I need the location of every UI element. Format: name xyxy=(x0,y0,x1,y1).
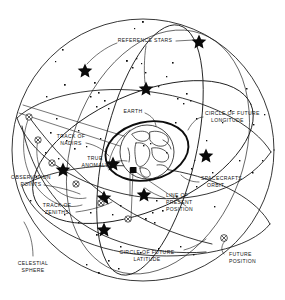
label-celestial-sphere-line2: SPHERE xyxy=(21,267,44,273)
observation-point-marker xyxy=(49,160,55,166)
label-spacecrafts-orbit-line2: ORBIT xyxy=(207,182,224,188)
label-track-of-nadirs-line2: NADIRS xyxy=(60,140,82,146)
diagram-canvas: REFERENCE STARS CIRCLE OF FUTURE LONGITU… xyxy=(0,0,285,300)
reference-star xyxy=(137,188,152,202)
reference-star xyxy=(78,64,93,78)
reference-star xyxy=(199,149,214,163)
label-reference-stars: REFERENCE STARS xyxy=(118,37,173,43)
label-earth: EARTH xyxy=(124,108,143,114)
reference-star xyxy=(97,223,112,237)
label-observation-points-line2: POINTS xyxy=(20,181,41,187)
label-track-of-zeniths-line1: TRACK OF xyxy=(43,202,72,208)
observation-point-marker xyxy=(98,200,104,206)
label-circle-of-future-longitude-line2: LONGITUDE xyxy=(211,117,244,123)
label-spacecrafts-orbit-line1: SPACECRAFTS xyxy=(201,175,242,181)
spacecraft-present-position xyxy=(130,167,137,173)
future-position-marker xyxy=(221,235,228,242)
observation-point-marker xyxy=(35,137,41,143)
track-of-zeniths xyxy=(22,126,206,253)
label-circle-of-future-longitude-line1: CIRCLE OF FUTURE xyxy=(205,110,260,116)
reference-star xyxy=(192,35,207,49)
label-future-position-line1: FUTURE xyxy=(229,251,252,257)
label-track-of-nadirs-line1: TRACK OF xyxy=(57,133,86,139)
celestial-sphere-figure: REFERENCE STARS CIRCLE OF FUTURE LONGITU… xyxy=(0,0,285,300)
label-observation-points-line1: OBSERVATION xyxy=(11,174,51,180)
observation-point-marker xyxy=(125,216,131,222)
label-celestial-sphere-line1: CELESTIAL xyxy=(18,260,49,266)
label-true-anomaly-line2: ANOMALY xyxy=(82,162,109,168)
label-circle-of-future-latitude-line1: CIRCLE OF FUTURE xyxy=(120,249,175,255)
label-future-position-line2: POSITION xyxy=(229,258,256,264)
label-line-of-present-position-line1: LINE OF xyxy=(166,192,188,198)
label-line-of-present-position-line2: PRESENT xyxy=(166,199,193,205)
earth-globe xyxy=(120,125,174,179)
observation-point-marker xyxy=(26,114,32,120)
label-true-anomaly-line1: TRUE xyxy=(87,155,103,161)
label-circle-of-future-latitude-line2: LATITUDE xyxy=(133,256,160,262)
label-line-of-present-position-line3: POSITION xyxy=(166,206,193,212)
label-track-of-zeniths-line2: ZENITHS xyxy=(45,209,69,215)
reference-star xyxy=(139,82,154,96)
reference-star xyxy=(56,163,71,177)
observation-point-marker xyxy=(73,181,79,187)
